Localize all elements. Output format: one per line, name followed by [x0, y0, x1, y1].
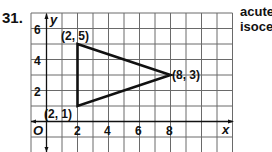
vertex-label-2-1: (2, 1) [44, 107, 72, 121]
x-tick-8: 8 [166, 124, 173, 138]
y-axis-arrow-icon [45, 13, 49, 19]
vertex-label-2-5: (2, 5) [61, 29, 89, 43]
y-axis-arrow-down-icon [45, 147, 49, 152]
coordinate-graph: y x O 6 4 2 2 4 6 8 (2, 5) (8, 3) (2, 1) [0, 0, 272, 152]
x-tick-4: 4 [104, 124, 111, 138]
x-axis-label: x [221, 122, 230, 137]
vertex-label-8-3: (8, 3) [172, 68, 200, 82]
y-tick-2: 2 [34, 85, 41, 99]
origin-label: O [33, 123, 43, 138]
y-tick-4: 4 [34, 54, 41, 68]
x-tick-2: 2 [74, 124, 81, 138]
y-tick-6: 6 [34, 23, 41, 37]
y-axis-label: y [49, 12, 58, 27]
x-tick-6: 6 [135, 124, 142, 138]
